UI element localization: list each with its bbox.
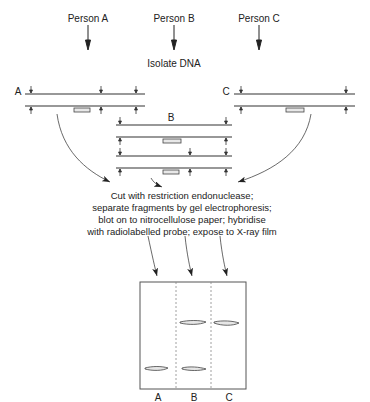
probe-b2	[163, 170, 179, 174]
isolate-dna-label: Isolate DNA	[147, 58, 200, 70]
person-a-label: Person A	[68, 13, 109, 25]
dna-c-label: C	[222, 86, 229, 98]
procedure-line: Cut with restriction endonuclease;	[77, 190, 287, 202]
dna-b	[116, 125, 232, 168]
dna-b-label: B	[168, 112, 175, 124]
lane-c-label: C	[225, 392, 232, 402]
procedure-text: Cut with restriction endonuclease; separ…	[77, 190, 287, 238]
restriction-sites-b	[119, 117, 228, 176]
procedure-line: blot on to nitrocellulose paper; hybridi…	[77, 214, 287, 226]
person-arrows	[86, 25, 262, 50]
dna-a-label: A	[15, 86, 22, 98]
person-b-label: Person B	[153, 13, 194, 25]
lane-b-label: B	[191, 392, 198, 402]
gel-arrows	[148, 236, 227, 276]
gel-film	[140, 282, 246, 389]
dna-c	[234, 94, 355, 106]
procedure-line: separate fragments by gel electrophoresi…	[77, 202, 287, 214]
person-c-label: Person C	[238, 13, 280, 25]
band-a-low	[145, 367, 168, 371]
probe-a	[74, 108, 90, 112]
procedure-line: with radiolabelled probe; expose to X-ra…	[77, 226, 287, 238]
lane-a-label: A	[155, 392, 162, 402]
probe-c	[286, 108, 304, 112]
dna-a	[25, 94, 145, 106]
probe-b1	[163, 139, 181, 143]
